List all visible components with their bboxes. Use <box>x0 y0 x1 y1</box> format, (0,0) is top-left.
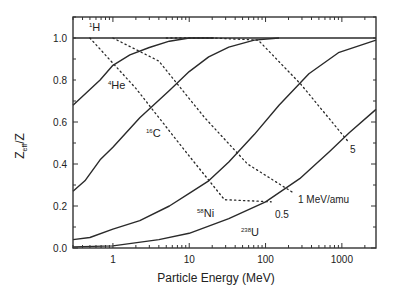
label-1-mev-amu: 1 MeV/amu <box>298 194 349 205</box>
label-u: 238U <box>241 226 259 238</box>
tick-label: 0.4 <box>53 159 67 170</box>
tick-label: 1.0 <box>53 33 67 44</box>
label-h: 1H <box>89 21 100 33</box>
x-axis-label: Particle Energy (MeV) <box>157 271 274 285</box>
tick-label: 0.2 <box>53 201 67 212</box>
plot-curves <box>73 38 376 247</box>
label-5-mev-amu: 5 <box>350 144 356 155</box>
series-4he <box>73 38 214 105</box>
tick-label: 0.0 <box>53 243 67 254</box>
chart-container: 11010010000.00.20.40.60.81.0 1H 4He 16C … <box>0 0 393 303</box>
tick-label: 100 <box>257 254 274 265</box>
chart-svg: 11010010000.00.20.40.60.81.0 1H 4He 16C … <box>0 0 393 303</box>
label-c: 16C <box>146 127 161 139</box>
series-16c <box>73 38 279 191</box>
series-238u <box>73 109 376 247</box>
label-0-5-mev-amu: 0.5 <box>275 209 289 220</box>
tick-label: 0.6 <box>53 117 67 128</box>
tick-label: 1000 <box>331 254 354 265</box>
y-axis-label: Zeff/Z <box>13 133 28 159</box>
tick-label: 10 <box>184 254 196 265</box>
series-5-mev-amu <box>166 38 347 141</box>
label-ni: 58Ni <box>197 207 214 219</box>
label-he: 4He <box>108 79 125 91</box>
tick-label: 0.8 <box>53 75 67 86</box>
plot-frame <box>73 17 376 248</box>
tick-label: 1 <box>110 254 116 265</box>
